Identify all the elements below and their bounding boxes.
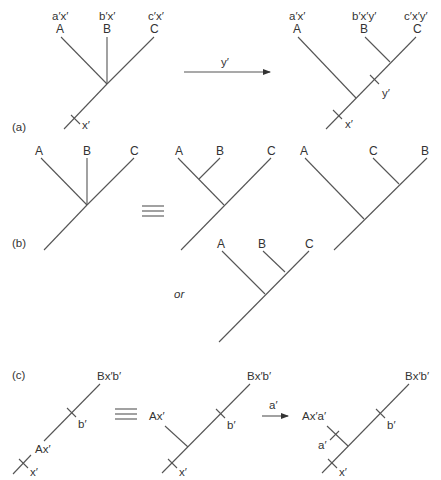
transition-arrow-a: y′ xyxy=(184,56,270,72)
taxon-label-b: B xyxy=(421,144,429,158)
lower-branch xyxy=(13,455,31,474)
branch-c xyxy=(107,37,154,84)
tick-label-x: x′ xyxy=(179,466,187,478)
side-label: Ax′ xyxy=(149,410,165,422)
branch-b xyxy=(199,158,220,179)
taxon-label-c: C xyxy=(130,144,139,158)
main-branch xyxy=(162,384,250,473)
taxon-label-b: B xyxy=(360,22,368,36)
taxon-label-a: A xyxy=(35,144,43,158)
top-label: Bx′b′ xyxy=(97,370,121,382)
tick-label-x: x′ xyxy=(82,119,90,131)
transition-label: y′ xyxy=(221,56,229,68)
branch-b xyxy=(365,37,390,62)
panel-c: (c) Bx′b′ b′ Ax′ x′ Bx′b′ Ax′ b′ xyxy=(12,369,429,478)
tree-c-1: Bx′b′ b′ Ax′ x′ xyxy=(13,370,121,478)
taxon-label-b: B xyxy=(258,237,266,251)
branch-b xyxy=(263,251,285,272)
character-label-b: b′x′ xyxy=(99,10,115,22)
top-label: Bx′b′ xyxy=(405,370,429,382)
taxon-label-c: C xyxy=(267,144,276,158)
main-branch xyxy=(219,251,309,342)
tick-label-x: x′ xyxy=(345,118,353,130)
character-label-c: c′x′ xyxy=(148,10,164,22)
tick-label-b: b′ xyxy=(78,418,87,430)
tick-label-x: x′ xyxy=(30,466,38,478)
tree-b-resolved-2: A C B xyxy=(300,144,429,250)
taxon-label-c: C xyxy=(305,237,314,251)
tick-label-b: b′ xyxy=(387,419,396,431)
tick-mark-x xyxy=(168,459,177,468)
mid-label: Ax′ xyxy=(35,443,51,455)
main-branch xyxy=(322,384,409,473)
side-branch xyxy=(165,426,188,447)
panel-label-a: (a) xyxy=(12,121,26,133)
branch-a xyxy=(178,158,224,205)
transition-arrow-c: a′ xyxy=(262,399,288,416)
tick-label-a: a′ xyxy=(318,439,327,451)
cladogram-figure: (a) a′x′ b′x′ c′x′ A B C x′ y′ a′x′ b′x′… xyxy=(0,0,441,480)
tree-b-resolved-1: A B C xyxy=(175,144,276,250)
taxon-label-a: A xyxy=(56,22,64,36)
equivalence-symbol-c xyxy=(115,409,137,419)
top-label: Bx′b′ xyxy=(247,370,271,382)
branch-a xyxy=(305,158,364,219)
taxon-label-a: A xyxy=(175,144,183,158)
character-label-c: c′x′y′ xyxy=(404,10,428,22)
side-branch xyxy=(327,426,348,446)
panel-a: (a) a′x′ b′x′ c′x′ A B C x′ y′ a′x′ b′x′… xyxy=(12,10,428,133)
character-label-a: a′x′ xyxy=(52,10,68,22)
branch-a xyxy=(61,37,107,84)
branch-c xyxy=(87,158,134,205)
panel-b: (b) A B C A B C A C xyxy=(12,144,429,342)
taxon-label-b: B xyxy=(103,22,111,36)
tick-label-b: b′ xyxy=(227,419,236,431)
branch-a xyxy=(298,37,356,98)
taxon-label-c: C xyxy=(150,22,159,36)
root-branch xyxy=(44,205,87,250)
taxon-label-c: C xyxy=(369,144,378,158)
tick-label-x: x′ xyxy=(339,466,347,478)
main-branch xyxy=(334,158,427,250)
taxon-label-a: A xyxy=(293,22,301,36)
tree-c-3: Bx′b′ Ax′a′ a′ b′ x′ xyxy=(302,370,429,478)
tree-a-after: a′x′ b′x′y′ c′x′y′ A B C y′ x′ xyxy=(289,10,428,130)
transition-label: a′ xyxy=(269,399,278,411)
branch-c xyxy=(373,158,399,184)
taxon-label-a: A xyxy=(300,144,308,158)
tick-label-y: y′ xyxy=(382,87,390,99)
taxon-label-b: B xyxy=(216,144,224,158)
branch-a xyxy=(222,251,265,294)
taxon-label-c: C xyxy=(413,22,422,36)
side-label: Ax′a′ xyxy=(302,410,326,422)
tick-mark-x xyxy=(328,459,337,468)
tree-c-2: Bx′b′ Ax′ b′ x′ xyxy=(149,370,271,478)
or-label: or xyxy=(174,288,185,300)
panel-label-c: (c) xyxy=(12,369,26,381)
panel-label-b: (b) xyxy=(12,237,26,249)
main-branch xyxy=(326,37,416,129)
character-label-b: b′x′y′ xyxy=(352,10,376,22)
equivalence-symbol-b xyxy=(142,206,164,216)
character-label-a: a′x′ xyxy=(289,10,305,22)
tree-a-before: a′x′ b′x′ c′x′ A B C x′ xyxy=(52,10,164,131)
taxon-label-b: B xyxy=(83,144,91,158)
taxon-label-a: A xyxy=(217,237,225,251)
tree-b-star: A B C xyxy=(35,144,139,250)
branch-a xyxy=(41,158,87,205)
tree-b-resolved-3: A B C xyxy=(217,237,314,342)
